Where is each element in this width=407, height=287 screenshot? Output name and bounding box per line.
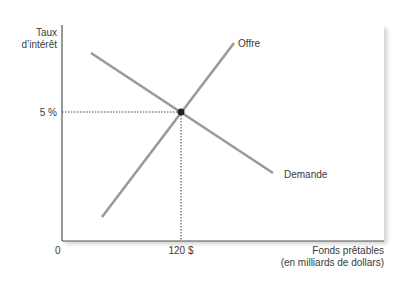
equilibrium-point (178, 109, 185, 116)
loanable-funds-chart: Offre Demande Taux d’intérêt 5 % 0 120 $… (0, 0, 407, 287)
x-axis-label-line2: (en milliards de dollars) (281, 257, 384, 268)
x-axis-label-line1: Fonds prêtables (312, 245, 384, 256)
demand-label: Demande (284, 169, 328, 180)
y-axis-label-line2: d’intérêt (21, 39, 57, 50)
y-tick-label: 5 % (40, 107, 57, 118)
origin-label: 0 (55, 245, 61, 256)
supply-label: Offre (238, 38, 260, 49)
y-axis-label-line1: Taux (36, 27, 57, 38)
x-tick-label: 120 $ (168, 245, 193, 256)
